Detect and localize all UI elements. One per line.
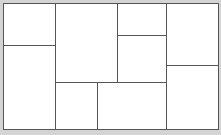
partition-cell-g <box>97 82 167 130</box>
partition-cell-f <box>55 82 98 130</box>
partition-cell-b <box>3 45 56 130</box>
partition-frame <box>3 3 218 129</box>
partition-cell-c <box>55 3 118 83</box>
partition-cell-i <box>166 65 219 130</box>
partition-cell-d <box>117 3 167 36</box>
partition-cell-a <box>3 3 56 46</box>
partition-cell-e <box>117 35 167 83</box>
partition-cell-h <box>166 3 219 66</box>
